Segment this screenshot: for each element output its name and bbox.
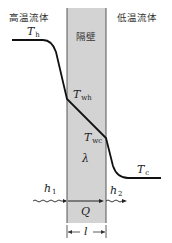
h2-main: h: [110, 184, 117, 197]
t-h-sub: h: [35, 31, 40, 39]
h2-label: h2: [110, 185, 123, 198]
h1-arrowhead-icon: [63, 199, 67, 203]
h1-wavy-arrow: [33, 200, 66, 202]
dim-right-arrowhead-icon: [101, 230, 105, 234]
h2-wavy-arrow: [106, 200, 124, 202]
cold-fluid-label: 低温流体: [117, 13, 157, 23]
wall-label: 隔壁: [76, 32, 96, 42]
dim-left-arrowhead-icon: [68, 230, 72, 234]
t-wh-label: Twh: [73, 89, 92, 102]
hot-fluid-label: 高温流体: [9, 13, 49, 23]
h1-label: h1: [44, 183, 57, 196]
lambda-label: λ: [82, 153, 89, 164]
t-wh-sub: wh: [81, 94, 92, 102]
t-h-label: Th: [27, 26, 40, 39]
h2-sub: 2: [118, 190, 122, 198]
t-wc-main: T: [84, 131, 91, 144]
thickness-l-label: l: [84, 226, 88, 237]
h1-main: h: [44, 182, 51, 195]
t-c-label: Tc: [137, 164, 149, 177]
q-label: Q: [81, 206, 90, 217]
t-c-main: T: [137, 163, 144, 176]
t-c-sub: c: [145, 169, 149, 177]
h2-arrowhead-icon: [122, 199, 127, 203]
t-wc-label: Twc: [84, 132, 102, 145]
t-h-main: T: [27, 25, 34, 38]
h1-sub: 1: [52, 188, 56, 196]
heat-transfer-diagram: 高温流体 低温流体 隔壁 Th Twh Twc λ Tc h1 h2 Q l: [0, 0, 172, 243]
t-wh-main: T: [73, 88, 80, 101]
t-wc-sub: wc: [92, 137, 102, 145]
